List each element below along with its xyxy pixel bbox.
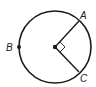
point-b <box>17 45 21 49</box>
radius-a <box>55 21 79 47</box>
label-a: A <box>79 10 87 21</box>
label-c: C <box>80 73 88 84</box>
right-angle-marker <box>60 42 65 52</box>
label-b: B <box>6 42 13 53</box>
center-point <box>53 45 57 49</box>
radius-c <box>55 47 79 72</box>
circle-diagram: A B C <box>0 0 96 87</box>
